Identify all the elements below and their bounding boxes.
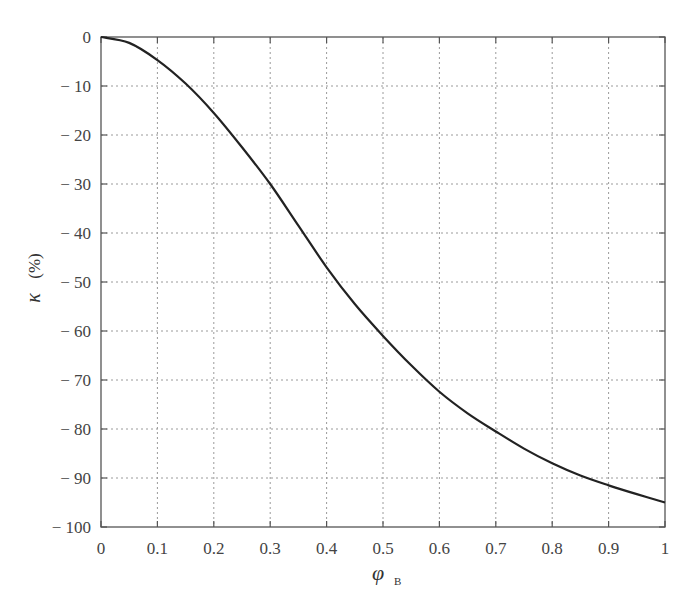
x-tick-label: 1 — [661, 539, 670, 558]
y-tick-label: − 30 — [60, 175, 91, 194]
x-axis-label-symbol: φ — [372, 560, 384, 585]
x-tick-label: 0.7 — [485, 539, 507, 558]
x-tick-label: 0.3 — [260, 539, 281, 558]
y-axis-label-unit: (%) — [25, 253, 44, 278]
x-axis-label-subscript: B — [394, 575, 401, 587]
y-tick-label: − 50 — [60, 273, 91, 292]
x-tick-label: 0.4 — [316, 539, 338, 558]
x-tick-label: 0.1 — [147, 539, 168, 558]
y-axis-label: κ (%) — [22, 253, 44, 303]
x-tick-label: 0 — [97, 539, 106, 558]
chart: 00.10.20.30.40.50.60.70.80.91 0− 10− 20−… — [0, 0, 697, 604]
x-tick-label: 0.5 — [372, 539, 393, 558]
x-tick-label: 0.9 — [598, 539, 619, 558]
y-tick-label: − 70 — [60, 371, 91, 390]
y-tick-label: − 40 — [60, 224, 91, 243]
y-tick-label: − 80 — [60, 420, 91, 439]
y-tick-label: − 90 — [60, 469, 91, 488]
y-tick-label: − 60 — [60, 322, 91, 341]
y-axis-label-symbol: κ — [22, 293, 44, 303]
y-tick-label: 0 — [83, 28, 92, 47]
x-tick-label: 0.8 — [542, 539, 563, 558]
y-tick-label: − 100 — [52, 518, 91, 537]
x-tick-label: 0.2 — [203, 539, 224, 558]
x-tick-label: 0.6 — [429, 539, 450, 558]
y-tick-labels: 0− 10− 20− 30− 40− 50− 60− 70− 80− 90− 1… — [52, 28, 91, 537]
grid-lines — [101, 37, 665, 527]
y-tick-label: − 10 — [60, 77, 91, 96]
x-tick-labels: 00.10.20.30.40.50.60.70.80.91 — [97, 539, 670, 558]
x-axis-label: φ B — [372, 560, 401, 587]
y-tick-label: − 20 — [60, 126, 91, 145]
